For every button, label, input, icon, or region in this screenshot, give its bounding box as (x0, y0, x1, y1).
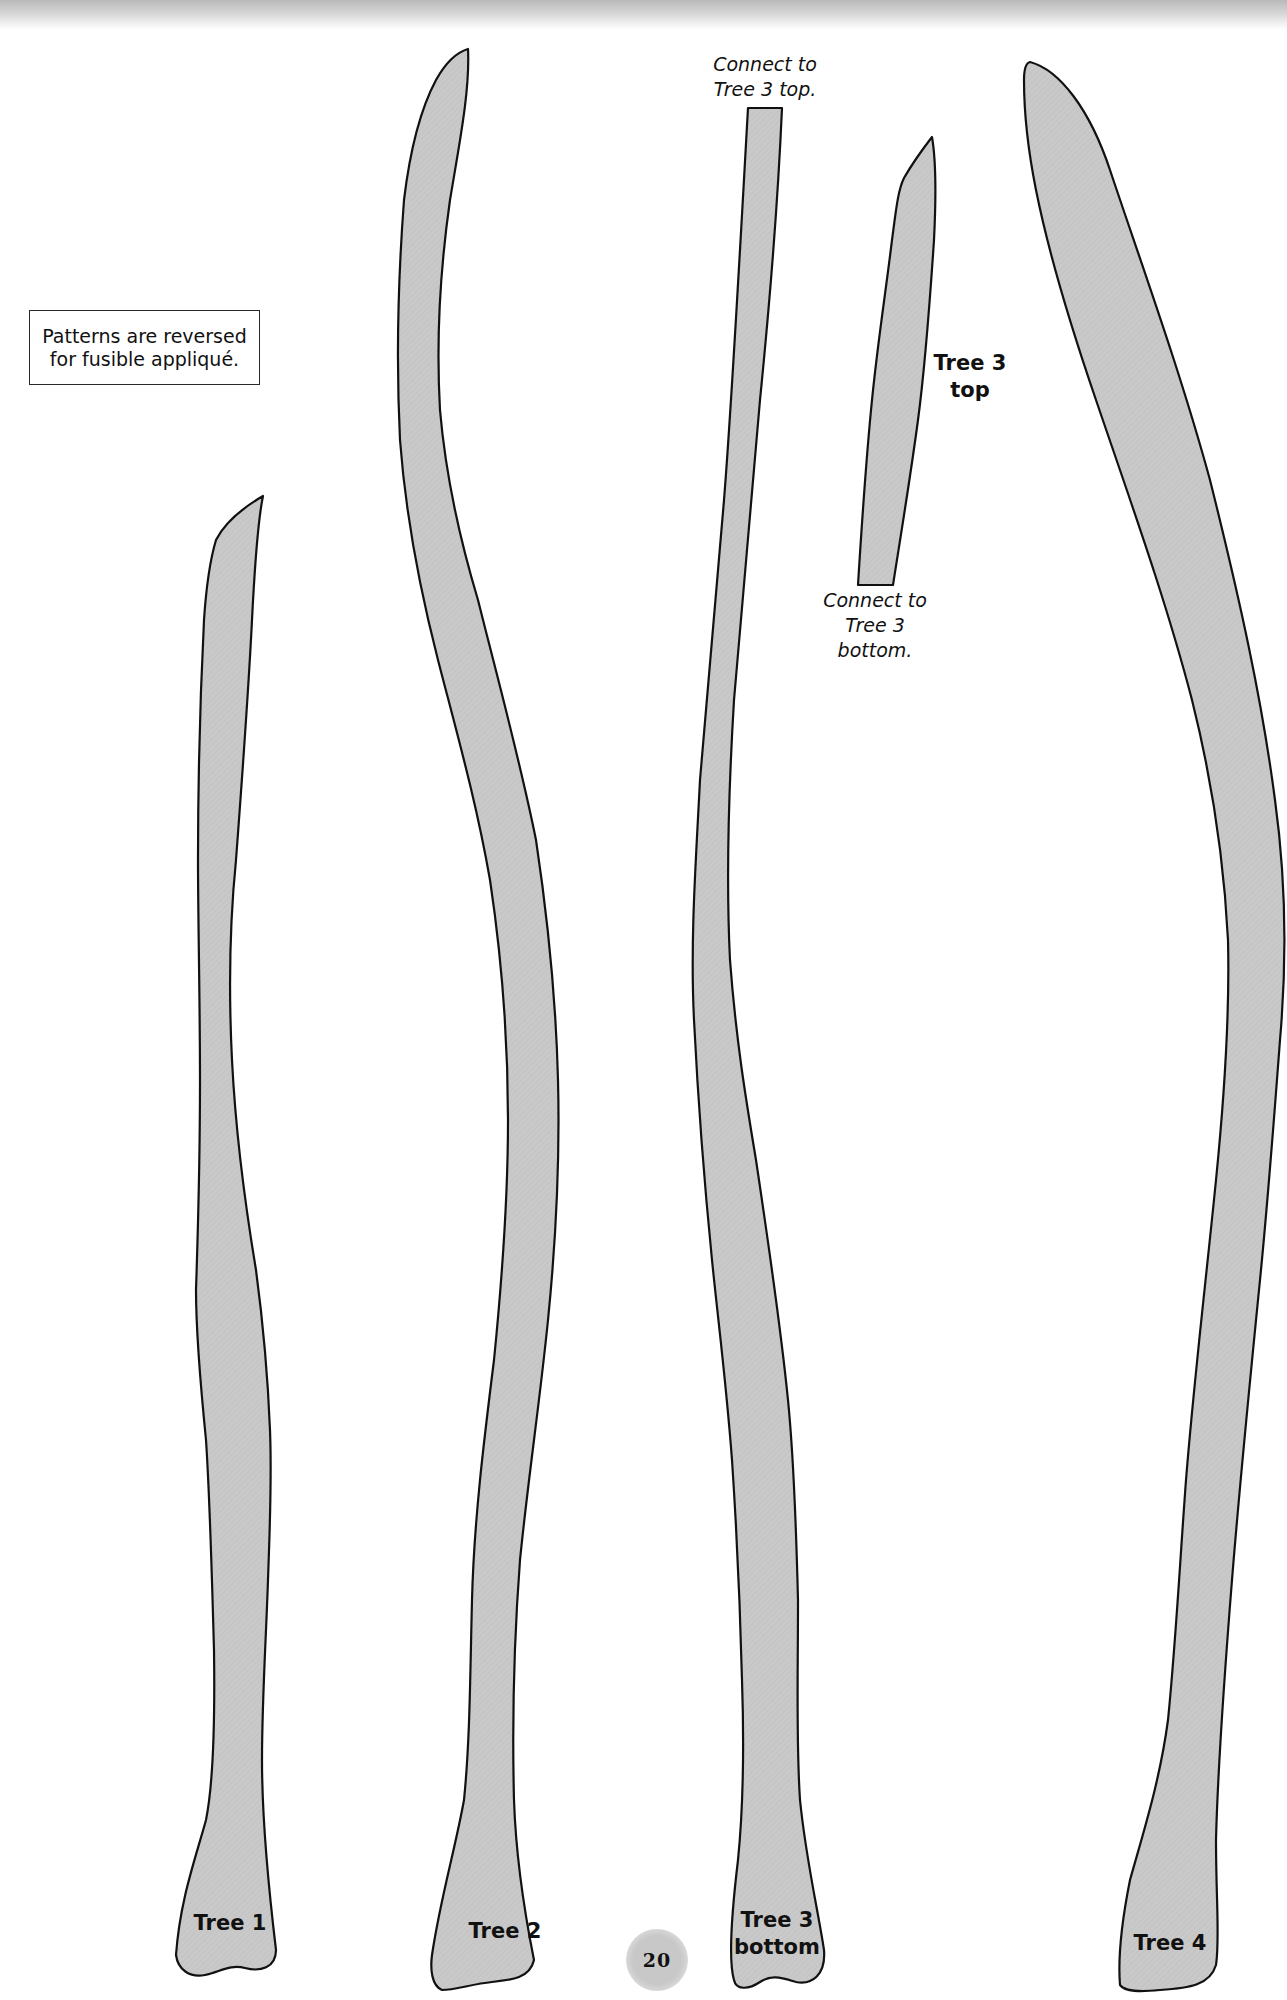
tree3-bottom-shape (693, 108, 825, 1988)
tree4-shape (1024, 62, 1284, 1991)
tree2-shape (398, 49, 559, 1990)
pattern-pieces (0, 0, 1287, 2000)
note-line-2: for fusible appliqué. (50, 348, 239, 371)
tree4-label: Tree 4 (1120, 1930, 1220, 1957)
connect-to-top-label: Connect to Tree 3 top. (690, 52, 840, 102)
tree1-label: Tree 1 (180, 1910, 280, 1937)
reversed-patterns-note: Patterns are reversed for fusible appliq… (29, 310, 260, 385)
page-number-badge: 20 (626, 1929, 688, 1991)
tree3-top-label: Tree 3 top (920, 350, 1020, 404)
tree3-bottom-label: Tree 3 bottom (727, 1907, 827, 1961)
tree2-label: Tree 2 (455, 1918, 555, 1945)
page-number: 20 (643, 1949, 671, 1971)
note-line-1: Patterns are reversed (42, 325, 247, 348)
tree1-shape (176, 496, 276, 1976)
connect-to-bottom-label: Connect to Tree 3 bottom. (800, 588, 950, 663)
